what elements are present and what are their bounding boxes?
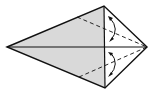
origami-diagram bbox=[0, 0, 155, 100]
